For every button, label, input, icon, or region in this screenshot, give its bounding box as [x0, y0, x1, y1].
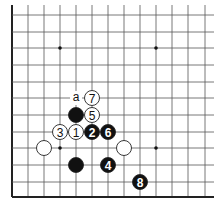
marker-letter: a	[73, 90, 80, 104]
move-number: 5	[89, 109, 96, 123]
go-board: a 75312648	[0, 0, 224, 208]
move-number: 8	[137, 176, 144, 190]
move-number: 2	[89, 126, 96, 140]
move-number: 3	[57, 126, 64, 140]
move-number: 4	[105, 159, 112, 173]
white-stone	[37, 141, 52, 156]
move-number: 1	[73, 126, 80, 140]
black-stone	[69, 158, 84, 173]
star-point-icon	[154, 46, 158, 50]
board-markers: a	[70, 90, 82, 105]
move-number: 7	[89, 92, 96, 106]
move-number: 6	[105, 126, 112, 140]
black-stone	[69, 108, 84, 123]
star-point-icon	[154, 146, 158, 150]
star-point-icon	[58, 46, 62, 50]
star-point-icon	[58, 146, 62, 150]
white-stone	[117, 141, 132, 156]
